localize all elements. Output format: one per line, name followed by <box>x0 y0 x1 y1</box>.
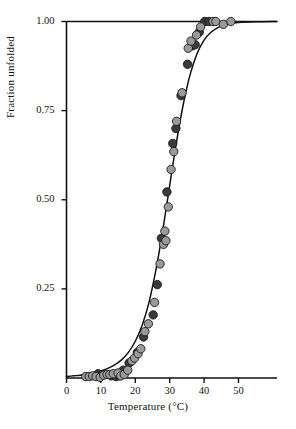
data-point <box>196 23 204 31</box>
x-axis-title: Temperature (°C) <box>0 400 296 412</box>
data-point <box>144 320 152 328</box>
fit-curve <box>67 22 278 377</box>
data-point <box>124 366 132 374</box>
data-points <box>82 17 236 381</box>
data-point <box>178 89 186 97</box>
data-point <box>161 227 169 235</box>
x-tick-label-0: 0 <box>54 385 80 396</box>
data-point <box>156 260 164 268</box>
data-point <box>227 17 235 25</box>
y-tick-label-1-00: 1.00 <box>15 15 55 26</box>
x-tick-label-50: 50 <box>225 385 251 396</box>
data-point <box>137 345 145 353</box>
axis-ticks <box>62 22 239 384</box>
x-tick-label-10: 10 <box>88 385 114 396</box>
data-point <box>162 237 170 245</box>
data-point <box>164 203 172 211</box>
data-point <box>153 280 161 288</box>
y-axis-title: Fraction unfolded <box>4 0 16 118</box>
data-point <box>150 298 158 306</box>
data-point <box>172 117 180 125</box>
axis-frame <box>67 22 278 379</box>
data-point <box>170 147 178 155</box>
data-point <box>149 311 157 319</box>
data-point <box>169 139 177 147</box>
data-point <box>163 188 171 196</box>
data-point <box>183 60 191 68</box>
y-tick-label-0-50: 0.50 <box>15 193 55 204</box>
x-tick-label-20: 20 <box>122 385 148 396</box>
plot-area <box>0 0 296 429</box>
y-tick-label-0-75: 0.75 <box>15 104 55 115</box>
data-point <box>167 165 175 173</box>
x-tick-label-30: 30 <box>157 385 183 396</box>
data-point <box>192 31 200 39</box>
x-tick-label-40: 40 <box>191 385 217 396</box>
y-tick-label-0-25: 0.25 <box>15 282 55 293</box>
melting-curve-figure: 1.00 0.75 0.50 0.25 0 10 20 30 40 50 Fra… <box>0 0 296 429</box>
data-point <box>141 327 149 335</box>
